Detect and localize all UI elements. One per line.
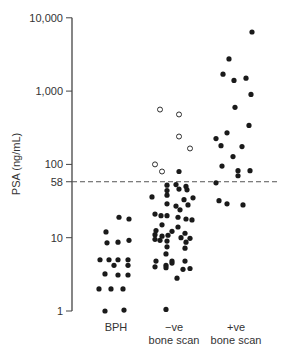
data-point-filled	[247, 168, 252, 173]
data-point-filled	[182, 258, 187, 263]
data-point-filled	[231, 78, 236, 83]
data-point-filled	[243, 76, 248, 81]
data-point-filled	[163, 265, 168, 270]
data-point-open	[160, 169, 165, 174]
y-tick-label: 58	[51, 176, 63, 188]
data-point-filled	[184, 187, 189, 192]
data-point-filled	[176, 169, 181, 174]
data-point-filled	[230, 154, 235, 159]
data-point-filled	[189, 217, 194, 222]
data-point-filled	[213, 136, 218, 141]
data-point-filled	[126, 238, 131, 243]
data-point-filled	[164, 213, 169, 218]
data-point-filled	[111, 263, 116, 268]
y-tick-label: 10,000	[29, 12, 63, 24]
data-point-filled	[158, 213, 163, 218]
data-point-filled	[239, 144, 244, 149]
category-label-neg: −ve	[165, 321, 183, 333]
data-points	[96, 29, 254, 313]
series-1	[149, 169, 195, 312]
data-point-filled	[149, 194, 154, 199]
data-point-filled	[181, 197, 186, 202]
data-point-filled	[125, 257, 130, 262]
series-3	[213, 29, 254, 207]
data-point-filled	[164, 201, 169, 206]
data-point-filled	[177, 207, 182, 212]
data-point-filled	[163, 251, 168, 256]
data-point-filled	[216, 198, 221, 203]
data-point-filled	[178, 235, 183, 240]
data-point-filled	[152, 237, 157, 242]
data-point-filled	[152, 264, 157, 269]
data-point-open	[188, 146, 193, 151]
data-point-filled	[115, 272, 120, 277]
category-labels: BPH−vebone scan+vebone scan	[105, 321, 262, 346]
data-point-filled	[175, 215, 180, 220]
data-point-filled	[169, 261, 174, 266]
data-point-filled	[182, 246, 187, 251]
data-point-filled	[164, 238, 169, 243]
data-point-filled	[240, 202, 245, 207]
data-point-open	[158, 107, 163, 112]
category-label-bph: BPH	[105, 321, 128, 333]
data-point-filled	[232, 105, 237, 110]
data-point-filled	[164, 193, 169, 198]
data-point-filled	[185, 202, 190, 207]
data-point-filled	[173, 182, 178, 187]
data-point-filled	[102, 271, 107, 276]
data-point-open	[177, 112, 182, 117]
data-point-filled	[157, 238, 162, 243]
data-point-filled	[235, 168, 240, 173]
data-point-filled	[153, 258, 158, 263]
series-2	[153, 107, 193, 174]
data-point-filled	[120, 286, 125, 291]
data-point-filled	[175, 224, 180, 229]
y-tick-label: 100	[45, 158, 63, 170]
data-point-filled	[187, 236, 192, 241]
y-axis-title: PSA (ng/mL)	[10, 133, 22, 195]
data-point-filled	[183, 240, 188, 245]
data-point-filled	[163, 307, 168, 312]
y-tick-label: 10	[51, 232, 63, 244]
data-point-filled	[96, 286, 101, 291]
data-point-filled	[164, 244, 169, 249]
data-point-filled	[190, 195, 195, 200]
data-point-open	[153, 162, 158, 167]
data-point-filled	[246, 123, 251, 128]
data-point-filled	[97, 257, 102, 262]
data-point-filled	[187, 266, 192, 271]
data-point-filled	[164, 183, 169, 188]
category-label-pos: +ve	[227, 321, 245, 333]
category-label-neg: bone scan	[149, 334, 200, 346]
data-point-filled	[165, 233, 170, 238]
psa-scatter-chart: 10,0001,00010058101 PSA (ng/mL) BPH−vebo…	[0, 0, 286, 349]
data-point-filled	[176, 187, 181, 192]
data-point-filled	[126, 216, 131, 221]
data-point-open	[177, 134, 182, 139]
data-point-filled	[169, 229, 174, 234]
data-point-filled	[174, 276, 179, 281]
data-point-filled	[103, 229, 108, 234]
category-label-pos: bone scan	[211, 334, 262, 346]
y-tick-label: 1	[57, 305, 63, 317]
data-point-filled	[220, 72, 225, 77]
data-point-filled	[213, 180, 218, 185]
data-point-filled	[180, 267, 185, 272]
data-point-filled	[182, 231, 187, 236]
data-point-filled	[159, 222, 164, 227]
data-point-filled	[108, 286, 113, 291]
data-point-filled	[183, 216, 188, 221]
series-0	[96, 215, 131, 314]
data-point-filled	[115, 240, 120, 245]
data-point-filled	[152, 211, 157, 216]
data-point-filled	[173, 203, 178, 208]
data-point-filled	[226, 56, 231, 61]
data-point-filled	[249, 29, 254, 34]
data-point-filled	[164, 188, 169, 193]
data-point-filled	[235, 173, 240, 178]
data-point-filled	[152, 232, 157, 237]
data-point-filled	[121, 307, 126, 312]
data-point-filled	[219, 163, 224, 168]
y-axis: 10,0001,00010058101	[29, 12, 72, 317]
data-point-filled	[106, 257, 111, 262]
